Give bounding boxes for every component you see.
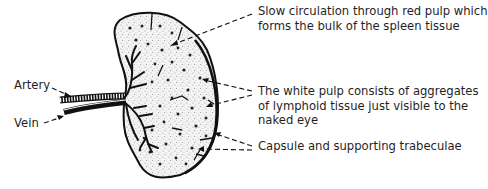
arrowhead-icon bbox=[57, 115, 64, 120]
white-pulp-label: The white pulp consists of aggregates of… bbox=[258, 84, 479, 128]
red-pulp-label: Slow circulation through red pulp which … bbox=[258, 4, 488, 33]
leader-capsule-1 bbox=[216, 134, 252, 146]
red-pulp-line-2: forms the bulk of the spleen tissue bbox=[258, 19, 488, 34]
white-pulp-line-2: of lymphoid tissue just visible to the bbox=[258, 99, 479, 114]
spleen-body bbox=[115, 13, 218, 178]
white-pulp-line-1: The white pulp consists of aggregates bbox=[258, 84, 479, 99]
arrowhead-icon bbox=[64, 92, 72, 98]
artery-label: Artery bbox=[14, 78, 50, 93]
vein-label: Vein bbox=[14, 116, 39, 131]
red-pulp-line-1: Slow circulation through red pulp which bbox=[258, 4, 488, 19]
capsule-label: Capsule and supporting trabeculae bbox=[258, 139, 462, 154]
white-pulp-line-3: naked eye bbox=[258, 113, 479, 128]
